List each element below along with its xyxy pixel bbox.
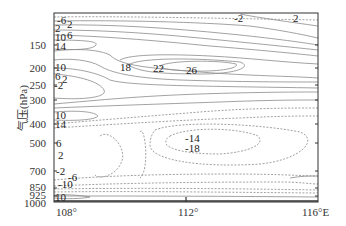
contour-chart	[0, 0, 346, 226]
contour-label: -10	[58, 179, 73, 190]
contour-label: 26	[186, 65, 197, 76]
contour-label: 10	[55, 192, 66, 203]
y-tick-label: 500	[14, 138, 46, 149]
y-tick-label: 300	[14, 95, 46, 106]
contour-label: 2	[293, 13, 299, 24]
contour-label: -18	[185, 143, 200, 154]
x-tick-label: 112°	[178, 207, 199, 218]
contour-lines	[54, 14, 318, 199]
y-tick-label: 1000	[14, 198, 46, 209]
contour-label: 18	[120, 62, 131, 73]
contour-label: -2	[234, 13, 243, 24]
contour-label: 2	[58, 150, 64, 161]
y-tick-label: 200	[14, 63, 46, 74]
y-tick-label: 400	[14, 119, 46, 130]
contour-label: 6	[56, 138, 62, 149]
y-tick-label: 150	[14, 40, 46, 51]
contour-label: 14	[55, 119, 66, 130]
x-tick-label: 108°	[56, 207, 77, 218]
contour-label: -2	[56, 166, 65, 177]
contour-label: 14	[55, 41, 66, 52]
x-tick-label: 116°E	[302, 207, 329, 218]
contour-label: 6	[67, 30, 73, 41]
contour-label: -2	[54, 80, 63, 91]
contour-label: 22	[153, 63, 164, 74]
y-tick-label: 250	[14, 80, 46, 91]
plot-frame	[54, 13, 318, 202]
y-tick-label: 700	[14, 166, 46, 177]
